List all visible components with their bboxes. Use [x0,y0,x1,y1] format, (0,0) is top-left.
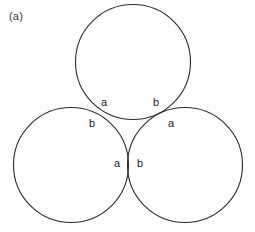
label-bottom-a: a [114,158,120,169]
bottom-right-circle [128,108,243,223]
label-upper-right-b: b [153,97,159,108]
figure-panel: (a) a b b a a b [0,0,255,232]
label-upper-right-a: a [168,118,174,129]
label-upper-left-b: b [89,118,95,129]
label-upper-left-a: a [101,97,107,108]
circle-packing-diagram [0,0,255,232]
label-bottom-b: b [137,158,143,169]
panel-caption: (a) [9,11,23,22]
bottom-left-circle [14,108,129,223]
top-circle [76,5,191,120]
